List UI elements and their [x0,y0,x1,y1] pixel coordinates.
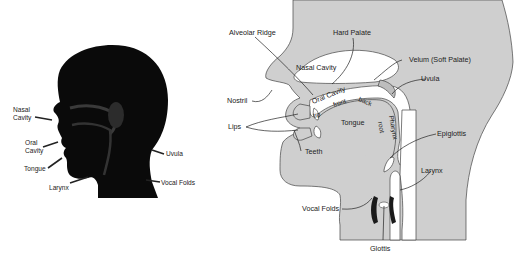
label-tongue-left: Tongue [24,165,46,173]
label-larynx-left: Larynx [49,184,69,192]
label-velum: Velum (Soft Palate) [409,55,471,64]
head-silhouette [53,45,168,198]
label-epiglottis: Epiglottis [437,129,467,138]
label-lips: Lips [228,122,242,131]
label-glottis: Glottis [370,244,391,253]
label-oral-cavity-left: OralCavity [25,139,44,155]
vocal-tract-figure: NasalCavity OralCavity Tongue Larynx Uvu… [0,0,523,258]
label-vocal-folds: Vocal Folds [302,204,340,213]
label-uvula-left: Uvula [166,150,183,157]
label-nasal-cavity: Nasal Cavity [296,63,337,72]
label-nasal-cavity-left: NasalCavity [13,106,32,122]
label-teeth: Teeth [305,147,323,156]
label-tongue: Tongue [341,118,365,127]
label-uvula: Uvula [421,74,439,83]
label-vocal-folds-left: Vocal Folds [161,179,196,186]
label-alveolar-ridge: Alveolar Ridge [229,28,276,37]
label-hard-palate: Hard Palate [333,28,371,37]
label-larynx: Larynx [421,166,443,175]
label-nostril: Nostril [227,96,248,105]
